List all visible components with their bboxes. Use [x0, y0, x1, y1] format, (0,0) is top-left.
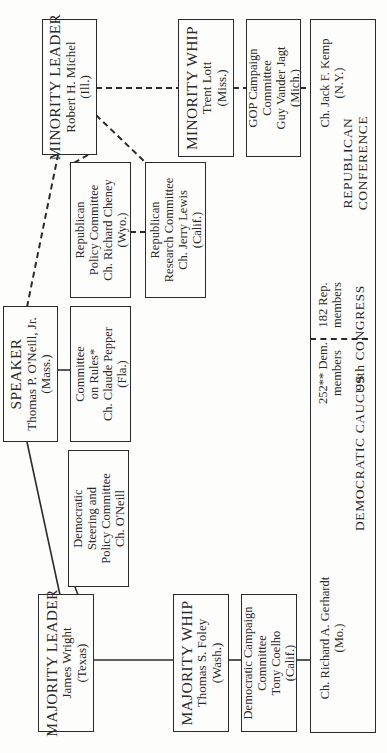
- steering-policy-committee-box: Democratic Steering and Policy Committee…: [68, 450, 129, 587]
- gop-campaign-line2: Committee: [260, 60, 274, 116]
- republican-research-committee-box: Republican Research Committee Ch. Jerry …: [145, 162, 206, 298]
- gop-campaign-line1: GOP Campaign: [246, 48, 260, 127]
- rules-committee-box: Committee on Rules* Ch. Claude Pepper (F…: [70, 306, 131, 442]
- rules-state: (Fla.): [115, 360, 129, 387]
- rules-chair: Ch. Claude Pepper: [101, 327, 115, 421]
- rep-conference-line2: CONFERENCE: [355, 103, 370, 223]
- majority-leader-name: James Wright: [60, 627, 75, 698]
- steering-line2: Steering and: [85, 487, 99, 550]
- rep-research-line2: Research Committee: [162, 178, 176, 282]
- democratic-campaign-committee-box: Democratic Campaign Committee Tony Coelh…: [241, 594, 297, 732]
- caucus-chair-state: (Mo.): [332, 563, 346, 713]
- rep-members-line2: members: [330, 274, 344, 336]
- majority-leader-state: (Texas): [75, 644, 90, 683]
- congress-label: 99th CONGRESS: [352, 263, 367, 413]
- conference-chair: Ch. Jack F. Kemp (N.Y.): [318, 23, 346, 143]
- majority-whip-box: MAJORITY WHIP Thomas S. Foley (Wash.): [173, 594, 229, 732]
- minority-leader-state: (Ill.): [78, 75, 93, 98]
- speaker-to-minority-leader-line: [27, 155, 58, 307]
- org-chart-canvas: MINORITY LEADER Robert H. Michel (Ill.) …: [0, 0, 387, 753]
- minority-leader-title: MINORITY LEADER: [46, 14, 63, 160]
- rep-members-count: 182 Rep. members: [316, 274, 344, 336]
- steering-line1: Democratic: [71, 489, 85, 547]
- conference-chair-name: Ch. Jack F. Kemp: [318, 23, 332, 143]
- speaker-to-majority-leader-line: [27, 442, 60, 595]
- rep-policy-state: (Wyo.): [115, 213, 129, 248]
- rep-research-state: (Calif.): [190, 212, 204, 248]
- speaker-name: Thomas P. O'Neill, Jr.: [25, 317, 40, 431]
- minority-leader-to-research-line: [96, 115, 146, 163]
- rep-policy-line2: Policy Committee: [87, 185, 101, 276]
- rep-policy-chair: Ch. Richard Cheney: [101, 179, 115, 281]
- conference-chair-state: (N.Y.): [332, 23, 346, 143]
- speaker-title: SPEAKER: [7, 339, 24, 410]
- dem-campaign-line1: Democratic Campaign: [241, 607, 255, 720]
- steering-line3: Policy Committee: [99, 473, 113, 564]
- gop-campaign-state: (Mich.): [288, 69, 302, 107]
- rep-research-chair: Ch. Jerry Lewis: [176, 190, 190, 270]
- gop-campaign-chair: Guy Vander Jagt: [274, 46, 288, 129]
- rep-policy-line1: Republican: [73, 202, 87, 259]
- steering-chair: Ch. O'Neill: [113, 490, 127, 547]
- minority-whip-title: MINORITY WHIP: [183, 26, 200, 150]
- dem-campaign-line2: Committee: [255, 635, 269, 691]
- majority-leader-title: MAJORITY LEADER: [43, 589, 60, 736]
- majority-whip-state: (Wash.): [210, 643, 225, 683]
- minority-leader-box: MINORITY LEADER Robert H. Michel (Ill.): [42, 19, 97, 155]
- republican-policy-committee-box: Republican Policy Committee Ch. Richard …: [70, 162, 131, 298]
- dem-members-line1: 252** Dem.: [316, 333, 330, 413]
- dem-campaign-chair: Tony Coelho: [269, 631, 283, 696]
- rules-line1: Committee: [73, 346, 87, 402]
- speaker-box: SPEAKER Thomas P. O'Neill, Jr. (Mass.): [3, 306, 58, 442]
- speaker-state: (Mass.): [39, 354, 54, 393]
- majority-leader-box: MAJORITY LEADER James Wright (Texas): [38, 594, 94, 732]
- rep-research-line1: Republican: [148, 202, 162, 259]
- minority-whip-box: MINORITY WHIP Trent Lott (Miss.): [178, 19, 234, 157]
- majority-whip-name: Thomas S. Foley: [195, 619, 210, 707]
- rules-line2: on Rules*: [87, 349, 101, 399]
- minority-whip-state: (Miss.): [215, 69, 230, 106]
- minority-leader-name: Robert H. Michel: [64, 41, 79, 132]
- majority-whip-title: MAJORITY WHIP: [178, 601, 195, 726]
- dem-members-count: 252** Dem. members: [316, 333, 344, 413]
- dem-members-line2: members: [330, 333, 344, 413]
- rep-members-line1: 182 Rep.: [316, 274, 330, 336]
- dem-campaign-state: (Calif.): [283, 645, 297, 681]
- gop-campaign-committee-box: GOP Campaign Committee Guy Vander Jagt (…: [246, 19, 301, 157]
- minority-whip-name: Trent Lott: [200, 62, 215, 115]
- caucus-chair: Ch. Richard A. Gerhardt (Mo.): [318, 563, 346, 713]
- caucus-chair-name: Ch. Richard A. Gerhardt: [318, 563, 332, 713]
